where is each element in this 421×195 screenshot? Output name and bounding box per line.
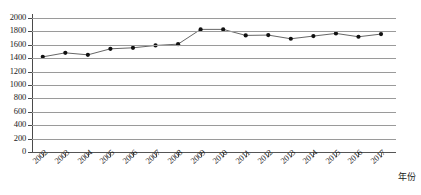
x-tick-label: 2015 — [324, 148, 342, 166]
y-tick-label: 800 — [0, 93, 26, 102]
y-tick-mark — [28, 139, 32, 140]
x-axis-title: 年份 — [398, 170, 416, 183]
y-tick-label: 1800 — [0, 26, 26, 35]
x-tick-label: 2005 — [98, 148, 116, 166]
x-tick-label: 2011 — [234, 148, 252, 165]
series-line — [43, 29, 381, 56]
line-chart: 2000180016001400120010008006004002000200… — [0, 0, 421, 195]
gridline — [32, 58, 397, 59]
y-tick-mark — [28, 112, 32, 113]
y-tick-mark — [28, 58, 32, 59]
y-tick-label: 200 — [0, 134, 26, 143]
x-tick-label: 2009 — [189, 148, 207, 166]
gridline — [32, 18, 397, 19]
y-tick-label: 1400 — [0, 53, 26, 62]
gridline — [32, 139, 397, 140]
x-tick-label: 2014 — [301, 148, 319, 166]
y-tick-mark — [28, 125, 32, 126]
y-axis-line — [32, 14, 33, 153]
y-tick-label: 400 — [0, 120, 26, 129]
y-tick-label: 2000 — [0, 13, 26, 22]
x-tick-label: 2010 — [211, 148, 229, 166]
y-tick-label: 600 — [0, 107, 26, 116]
gridline — [32, 125, 397, 126]
y-tick-mark — [28, 72, 32, 73]
y-tick-mark — [28, 152, 32, 153]
x-tick-label: 2002 — [31, 148, 49, 166]
x-tick-label: 2004 — [76, 148, 94, 166]
gridline — [32, 112, 397, 113]
y-tick-mark — [28, 85, 32, 86]
y-tick-label: 1600 — [0, 40, 26, 49]
y-tick-label: 0 — [0, 147, 26, 156]
x-tick-label: 2007 — [144, 148, 162, 166]
data-point-marker — [266, 33, 270, 37]
y-tick-mark — [28, 45, 32, 46]
y-tick-mark — [28, 18, 32, 19]
x-tick-label: 2012 — [256, 148, 274, 166]
y-tick-mark — [28, 98, 32, 99]
data-point-marker — [311, 34, 315, 38]
gridline — [32, 45, 397, 46]
gridline — [32, 31, 397, 32]
data-point-marker — [86, 53, 90, 57]
x-tick-label: 2013 — [279, 148, 297, 166]
gridline — [32, 72, 397, 73]
x-tick-label: 2016 — [346, 148, 364, 166]
data-point-marker — [131, 46, 135, 50]
data-point-marker — [356, 35, 360, 39]
x-tick-label: 2008 — [166, 148, 184, 166]
y-tick-label: 1000 — [0, 80, 26, 89]
data-point-marker — [244, 33, 248, 37]
y-tick-label: 1200 — [0, 67, 26, 76]
gridline — [32, 85, 397, 86]
data-point-marker — [379, 32, 383, 36]
data-point-marker — [108, 47, 112, 51]
y-tick-mark — [28, 31, 32, 32]
x-tick-label: 2017 — [369, 148, 387, 166]
x-tick-label: 2003 — [53, 148, 71, 166]
x-tick-label: 2006 — [121, 148, 139, 166]
data-point-marker — [63, 51, 67, 55]
data-point-marker — [289, 37, 293, 41]
gridline — [32, 98, 397, 99]
